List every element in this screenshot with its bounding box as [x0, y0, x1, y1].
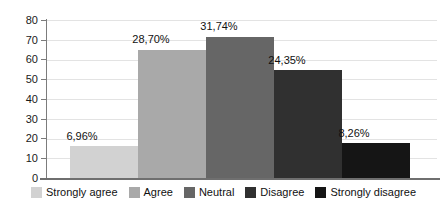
- chart-legend: Strongly agree Agree Neutral Disagree St…: [0, 186, 447, 198]
- bar-disagree[interactable]: [274, 70, 342, 178]
- legend-swatch-icon-agree: [129, 187, 140, 198]
- y-tick-label-20: 20: [4, 133, 38, 144]
- legend-swatch-icon-strongly-agree: [31, 187, 42, 198]
- legend-label-neutral: Neutral: [199, 186, 234, 198]
- data-label-agree: 28,70%: [120, 34, 182, 45]
- y-tick-label-40: 40: [4, 94, 38, 105]
- y-tick-label-50: 50: [4, 74, 38, 85]
- data-label-strongly-disagree: 8,26%: [328, 128, 380, 139]
- y-tick-label-30: 30: [4, 114, 38, 125]
- bar-agree[interactable]: [138, 50, 206, 178]
- y-tick-label-10: 10: [4, 153, 38, 164]
- legend-swatch-icon-neutral: [184, 187, 195, 198]
- bar-chart: 80 70 60 50 40 30 20 10 0: [0, 0, 447, 218]
- y-tick-label-0: 0: [4, 173, 38, 184]
- legend-label-disagree: Disagree: [260, 186, 304, 198]
- legend-item-strongly-agree[interactable]: Strongly agree: [31, 186, 118, 198]
- legend-label-agree: Agree: [144, 186, 173, 198]
- legend-item-neutral[interactable]: Neutral: [184, 186, 234, 198]
- bar-strongly-disagree[interactable]: [342, 143, 410, 178]
- bars-layer: [47, 20, 437, 178]
- plot-area: [47, 20, 437, 178]
- legend-swatch-icon-disagree: [245, 187, 256, 198]
- data-label-neutral: 31,74%: [188, 21, 250, 32]
- y-tick-label-70: 70: [4, 35, 38, 46]
- data-label-disagree: 24,35%: [256, 55, 318, 66]
- x-axis-line: [40, 178, 440, 180]
- bar-strongly-agree[interactable]: [70, 146, 138, 178]
- legend-swatch-icon-strongly-disagree: [315, 187, 326, 198]
- y-tick-label-60: 60: [4, 54, 38, 65]
- legend-item-agree[interactable]: Agree: [129, 186, 173, 198]
- data-label-strongly-agree: 6,96%: [56, 131, 108, 142]
- legend-item-disagree[interactable]: Disagree: [245, 186, 304, 198]
- legend-item-strongly-disagree[interactable]: Strongly disagree: [315, 186, 416, 198]
- legend-label-strongly-disagree: Strongly disagree: [330, 186, 416, 198]
- y-tick-label-80: 80: [4, 15, 38, 26]
- legend-label-strongly-agree: Strongly agree: [46, 186, 118, 198]
